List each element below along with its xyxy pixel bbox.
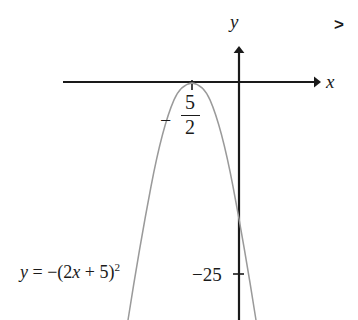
stray-angle-bracket-mark: > (334, 16, 344, 33)
x-intercept-minus-sign: − (160, 110, 171, 130)
y-intercept-label: −25 (192, 265, 222, 284)
equation-lhs: y (20, 262, 28, 282)
equation-coefficient: 2 (63, 262, 72, 282)
x-intercept-denominator: 2 (176, 117, 204, 139)
equation-label: y = −(2x + 5)2 (20, 262, 120, 281)
equation-plus: + (85, 262, 95, 282)
math-figure: y x > − 5 2 −25 y = −(2x + 5)2 (0, 0, 358, 320)
equation-equals-sign: = (33, 262, 43, 282)
x-intercept-numerator: 5 (176, 92, 204, 114)
y-axis-arrowhead (234, 46, 245, 53)
y-axis-label: y (230, 12, 238, 31)
equation-negation-open: −( (47, 262, 63, 282)
equation-exponent: 2 (114, 261, 120, 273)
x-axis-arrowhead (314, 77, 321, 88)
x-axis-label: x (326, 72, 334, 91)
x-intercept-fraction: 5 2 (176, 92, 204, 138)
